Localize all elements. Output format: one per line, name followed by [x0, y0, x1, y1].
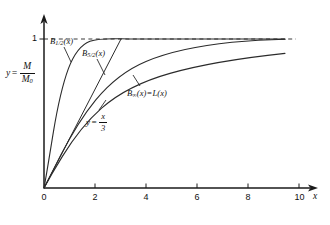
tangent-label-equals: = — [91, 117, 97, 127]
tangent-label-fraction: x 3 — [99, 112, 107, 132]
leader-line-b-half — [64, 47, 71, 62]
b-half-subscript: 1/2 — [55, 39, 63, 46]
ytick-label-1: 1 — [26, 33, 37, 43]
curve-b-half — [44, 39, 285, 188]
brillouin-function-figure: 0 2 4 6 8 10 x 1 y = M M0 B1/2(x) B5/2(x… — [0, 0, 330, 225]
y-axis-label-equals: = — [11, 68, 17, 78]
b-half-argument: (x) — [64, 36, 74, 46]
xtick-label-6: 6 — [191, 192, 203, 202]
leader-line-b-five-half — [97, 59, 105, 75]
y-denominator-subscript: 0 — [30, 77, 33, 84]
b-five-half-subscript: 5/2 — [87, 51, 95, 58]
y-axis-label-numerator: M — [21, 62, 33, 73]
tangent-denominator: 3 — [99, 123, 107, 133]
x-axis-label: x — [313, 191, 317, 201]
b-infinity-argument: (x)=L(x) — [137, 88, 167, 98]
y-denominator-base: M — [22, 74, 30, 84]
tangent-line-label: y = x 3 — [86, 112, 107, 132]
y-axis-label-denominator: M0 — [20, 74, 35, 85]
tangent-label-var: y — [86, 117, 90, 127]
curve-b-five-half — [44, 39, 285, 188]
curve-label-b-five-half: B5/2(x) — [82, 48, 105, 58]
xtick-label-4: 4 — [140, 192, 152, 202]
xtick-label-10: 10 — [292, 192, 307, 202]
leader-line-b-infinity — [133, 75, 140, 86]
tangent-line-x-over-3 — [44, 39, 121, 188]
tangent-numerator: x — [99, 112, 107, 122]
xtick-label-0: 0 — [38, 192, 50, 202]
y-axis-label: y = M M0 — [6, 62, 35, 84]
xtick-label-2: 2 — [89, 192, 101, 202]
b-five-half-argument: (x) — [96, 48, 106, 58]
xtick-label-8: 8 — [242, 192, 254, 202]
y-axis-label-fraction: M M0 — [20, 62, 35, 84]
y-axis-label-var: y — [6, 68, 10, 78]
curve-label-b-half: B1/2(x) — [50, 36, 73, 46]
curve-label-b-infinity: B∞(x)=L(x) — [127, 88, 167, 98]
